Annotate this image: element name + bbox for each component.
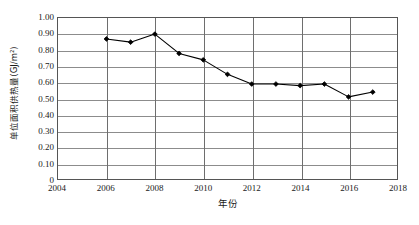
y-axis-tick-label: 0.90 [38,29,54,38]
x-axis-tick-label: 2016 [340,183,358,194]
x-axis-tick-label: 2012 [243,183,261,194]
y-axis-tick-label: 0.60 [38,78,54,87]
data-point-marker [346,95,351,100]
data-point-marker [201,57,206,62]
data-point-marker [274,82,279,87]
y-axis-title-text: 单位面积供热量(GJ/m²) [7,46,19,139]
y-axis-tick-label: 0.50 [38,94,54,103]
y-axis-tick-label: 0.30 [38,127,54,136]
y-axis-tick-label: 0.10 [38,159,54,168]
y-axis-tick-label: 0.40 [38,110,54,119]
y-axis-tick-label: 0.20 [38,143,54,152]
series-line [106,34,372,97]
x-axis-tick-label: 2004 [48,183,66,194]
data-point-marker [298,83,303,88]
x-axis-tick-label: 2006 [97,183,115,194]
data-point-marker [249,82,254,87]
x-axis-tick-labels: 20042006200820102012201420162018 [57,183,398,197]
data-point-marker [370,90,375,95]
data-point-marker [104,37,109,42]
data-point-marker [128,40,133,45]
chart-figure: 单位面积供热量(GJ/m²) 00.100.200.300.400.500.60… [0,0,419,225]
data-point-marker [322,82,327,87]
x-axis-tick-label: 2014 [292,183,310,194]
y-axis-tick-label: 1.00 [38,13,54,22]
x-axis-tick-label: 2018 [389,183,407,194]
plot-area [57,17,398,180]
line-series-svg [58,18,397,179]
data-point-marker [225,72,230,77]
x-axis-tick-label: 2008 [145,183,163,194]
y-axis-tick-labels: 00.100.200.300.400.500.600.700.800.901.0… [22,17,56,180]
data-series-layer [58,18,397,179]
y-axis-tick-label: 0.70 [38,61,54,70]
x-axis-tick-label: 2010 [194,183,212,194]
y-axis-tick-label: 0.80 [38,45,54,54]
x-axis-title: 年份 [57,196,398,210]
